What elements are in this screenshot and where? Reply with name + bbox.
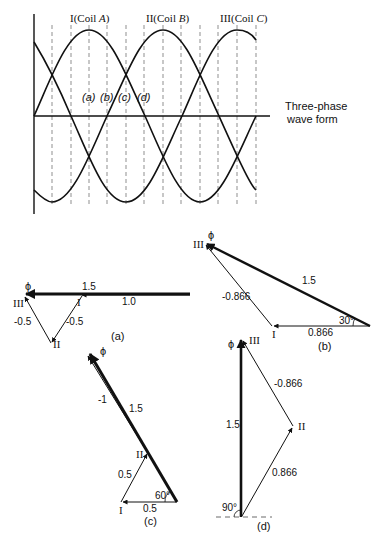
waveform-title-line2: wave form xyxy=(286,113,338,125)
waveform-plot: I(Coil A) II(Coil B) III(Coil C) (a) (b)… xyxy=(34,12,347,214)
phasor-d-caption: (d) xyxy=(257,520,270,532)
coil-label-A: I(Coil A) xyxy=(70,12,110,25)
instant-label-a: (a) xyxy=(82,91,96,103)
phasor-d-vertex-II: II xyxy=(298,420,306,432)
phasor-b-caption: (b) xyxy=(318,340,331,352)
waveform-title-line1: Three-phase xyxy=(285,100,347,112)
phasor-a-coil-III-value: -0.5 xyxy=(14,316,32,327)
phasor-b-angle: 30° xyxy=(339,315,354,326)
phasor-a-vertex-III: III xyxy=(13,297,24,309)
phasor-c-caption: (c) xyxy=(144,515,157,527)
phasor-c-coil-I-value: 0.5 xyxy=(143,503,157,514)
phasor-a-vertex-II: II xyxy=(53,338,61,350)
phasor-c-vertex-II: II xyxy=(136,448,144,460)
phasor-c-angle: 60° xyxy=(155,490,170,501)
phasor-a-caption: (a) xyxy=(111,330,124,342)
phasor-a-flux-symbol: ϕ xyxy=(25,280,31,292)
phasor-b-vertex-III: III xyxy=(193,238,204,250)
phasor-d-vertex-III: III xyxy=(249,334,260,346)
phasor-diagram-a: ϕ 1.5 1.0 I III II -0.5 -0.5 (a) xyxy=(13,280,190,350)
phasor-d-coil-III-value: -0.866 xyxy=(274,378,303,389)
phasor-c-vertex-I: I xyxy=(119,504,123,516)
phasor-b-coil-III-value: -0.866 xyxy=(222,291,251,302)
instant-label-b: (b) xyxy=(100,91,114,103)
instant-label-d: (d) xyxy=(137,91,151,103)
coil-label-B: II(Coil B) xyxy=(146,12,189,25)
phasor-d-resultant-label: 1.5 xyxy=(226,419,240,430)
phasor-c-resultant-label: 1.5 xyxy=(129,403,143,414)
phasor-b-coil-III xyxy=(206,245,272,326)
phasor-d-angle: 90° xyxy=(222,502,237,513)
phasor-b-resultant-label: 1.5 xyxy=(302,275,316,286)
phasor-d-flux-symbol: ϕ xyxy=(228,338,234,350)
phasor-b-resultant xyxy=(207,244,370,326)
phasor-a-resultant-label: 1.5 xyxy=(82,281,96,292)
phasor-diagram-b: ϕ III 1.5 -0.866 30° I 0.866 (b) xyxy=(193,229,370,352)
three-phase-diagram: I(Coil A) II(Coil B) III(Coil C) (a) (b)… xyxy=(0,0,383,543)
instant-label-c: (c) xyxy=(118,91,131,103)
phasor-a-vertex-I: I xyxy=(77,296,81,308)
phasor-c-coil-II-value: 0.5 xyxy=(118,469,132,480)
phasor-a-coil-I-value: 1.0 xyxy=(122,296,136,307)
phasor-b-coil-I-value: 0.866 xyxy=(308,327,333,338)
phasor-diagram-c: ϕ -1 1.5 II 0.5 60° I 0.5 (c) xyxy=(88,345,177,527)
phasor-c-flux-symbol: ϕ xyxy=(100,345,106,357)
phasor-b-vertex-I: I xyxy=(272,328,276,340)
phasor-d-coil-II-value: 0.866 xyxy=(272,467,297,478)
phasor-diagram-d: ϕ III -0.866 II 1.5 0.866 90° (d) xyxy=(216,334,306,532)
phasor-a-coil-II-value: -0.5 xyxy=(66,316,84,327)
phasor-c-coil-III-value: -1 xyxy=(98,394,107,405)
phasor-b-flux-symbol: ϕ xyxy=(208,229,214,241)
coil-label-C: III(Coil C) xyxy=(220,12,268,25)
